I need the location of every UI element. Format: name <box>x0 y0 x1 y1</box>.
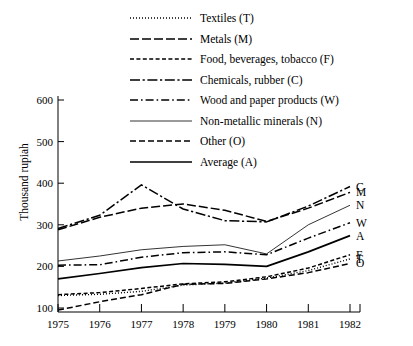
y-axis-ticks: 100200300400500600 <box>37 94 65 314</box>
series-line-W <box>58 223 350 265</box>
legend-item-label: Other (O) <box>200 135 245 147</box>
legend-item-label: Metals (M) <box>200 33 252 45</box>
legend-line-sample-icon <box>130 156 192 168</box>
x-tick-label: 1976 <box>89 318 112 330</box>
legend-item-1: Metals (M) <box>130 29 380 50</box>
series-end-labels: TMFCWNOA <box>356 181 367 270</box>
chart-figure: 1002003004005006001975197619771978197919… <box>0 0 413 346</box>
chart-legend: Textiles (T)Metals (M)Food, beverages, t… <box>130 8 380 172</box>
legend-item-6: Other (O) <box>130 131 380 152</box>
legend-item-0: Textiles (T) <box>130 8 380 29</box>
legend-item-3: Chemicals, rubber (C) <box>130 70 380 91</box>
legend-item-label: Wood and paper products (W) <box>200 94 339 106</box>
y-tick-label: 100 <box>37 302 54 314</box>
y-tick-label: 500 <box>37 136 54 148</box>
series-end-label-W: W <box>356 217 367 229</box>
series-line-F <box>58 255 350 295</box>
legend-item-label: Chemicals, rubber (C) <box>200 74 303 86</box>
legend-item-2: Food, beverages, tobacco (F) <box>130 49 380 70</box>
x-tick-label: 1979 <box>214 318 237 330</box>
series-end-label-N: N <box>356 199 365 211</box>
legend-item-5: Non-metallic minerals (N) <box>130 111 380 132</box>
x-tick-label: 1975 <box>47 318 70 330</box>
legend-item-label: Food, beverages, tobacco (F) <box>200 53 334 65</box>
series-end-label-A: A <box>356 230 365 242</box>
legend-item-label: Non-metallic minerals (N) <box>200 115 322 127</box>
x-tick-label: 1982 <box>339 318 361 330</box>
x-axis-ticks: 19751976197719781979198019811982 <box>47 304 361 330</box>
legend-item-4: Wood and paper products (W) <box>130 90 380 111</box>
series-line-A <box>58 236 350 279</box>
legend-item-label: Textiles (T) <box>200 12 254 24</box>
chart-series-group <box>58 185 350 310</box>
legend-line-sample-icon <box>130 135 192 147</box>
series-end-label-C: C <box>356 181 364 193</box>
legend-line-sample-icon <box>130 115 192 127</box>
x-tick-label: 1978 <box>172 318 195 330</box>
y-tick-label: 400 <box>37 177 54 189</box>
y-tick-label: 300 <box>37 219 54 231</box>
legend-line-sample-icon <box>130 12 192 24</box>
series-end-label-O: O <box>356 257 364 269</box>
x-tick-label: 1977 <box>130 318 153 330</box>
series-line-M <box>58 192 350 229</box>
legend-line-sample-icon <box>130 33 192 45</box>
legend-item-label: Average (A) <box>200 156 257 168</box>
legend-line-sample-icon <box>130 74 192 86</box>
x-tick-label: 1981 <box>297 318 319 330</box>
y-tick-label: 200 <box>37 260 54 272</box>
y-tick-label: 600 <box>37 94 54 106</box>
legend-line-sample-icon <box>130 94 192 106</box>
legend-line-sample-icon <box>130 53 192 65</box>
x-tick-label: 1980 <box>256 318 279 330</box>
legend-item-7: Average (A) <box>130 152 380 173</box>
y-axis-title: Thousand rupiah <box>18 122 30 242</box>
